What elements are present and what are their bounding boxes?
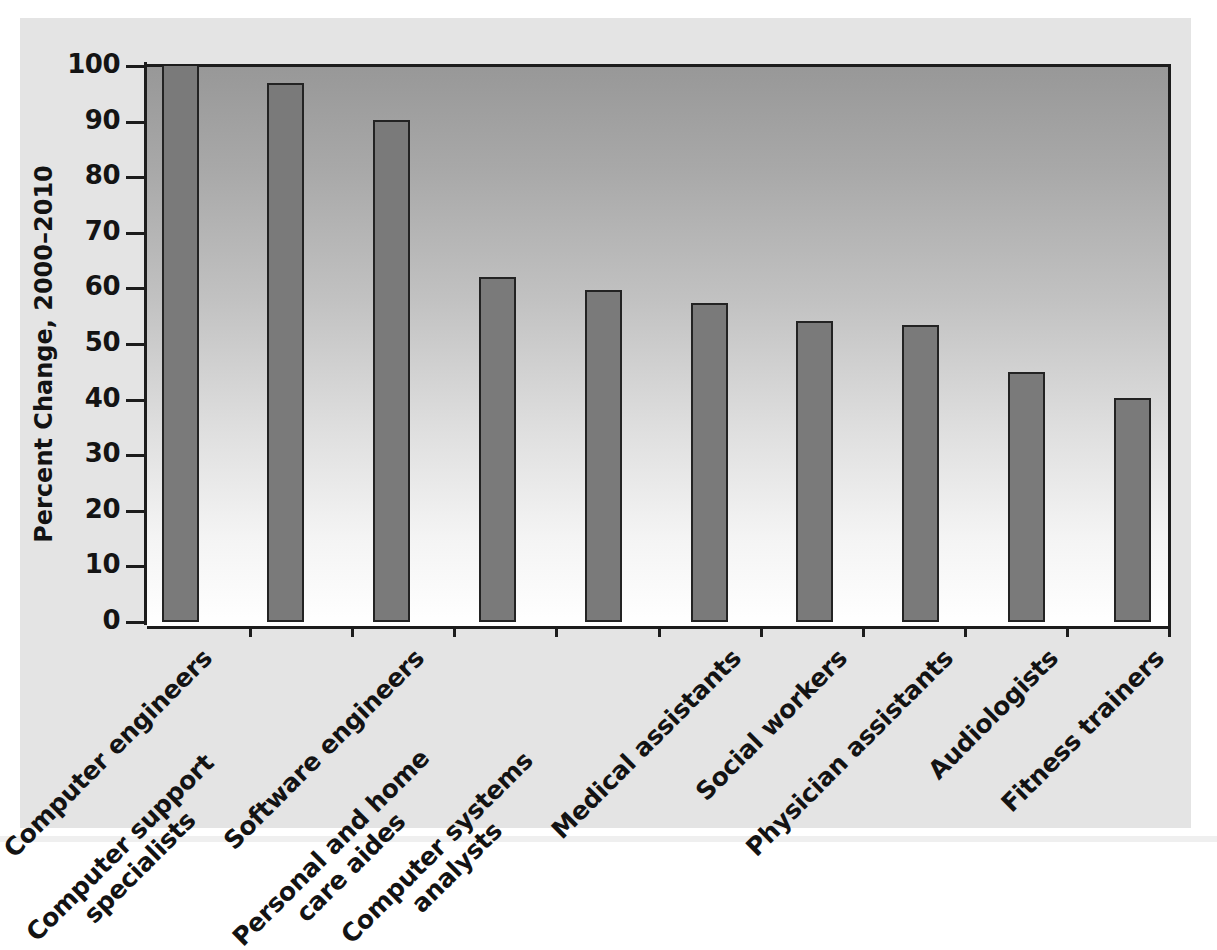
y-axis-tick-label: 40 xyxy=(50,383,120,413)
y-axis-tick xyxy=(126,121,144,124)
x-axis-tick xyxy=(555,626,558,637)
y-axis-tick-label-wrap: 100 xyxy=(28,66,120,67)
x-axis-tick xyxy=(760,626,763,637)
bar xyxy=(267,83,304,622)
bar xyxy=(902,325,939,622)
bar xyxy=(479,277,516,622)
y-axis-tick xyxy=(126,454,144,457)
bar xyxy=(162,66,199,622)
y-axis-tick xyxy=(126,399,144,402)
x-axis-tick xyxy=(351,626,354,637)
y-axis-tick-label: 0 xyxy=(50,605,120,635)
bar xyxy=(691,303,728,622)
bar xyxy=(1114,398,1151,622)
y-axis-tick-label: 100 xyxy=(50,49,120,79)
y-axis-tick-label: 80 xyxy=(50,160,120,190)
bar xyxy=(796,321,833,622)
y-axis-tick xyxy=(126,621,144,624)
bar xyxy=(1008,372,1045,622)
x-axis-tick xyxy=(1168,626,1171,637)
x-axis-tick xyxy=(862,626,865,637)
y-axis-title: Percent Change, 2000–2010 xyxy=(30,104,58,604)
y-axis-tick-label: 20 xyxy=(50,494,120,524)
x-axis-tick xyxy=(658,626,661,637)
y-axis-tick-label: 30 xyxy=(50,438,120,468)
x-axis-tick xyxy=(249,626,252,637)
x-axis-tick xyxy=(964,626,967,637)
y-axis-tick xyxy=(126,287,144,290)
bar xyxy=(373,120,410,622)
y-axis-tick-label: 60 xyxy=(50,271,120,301)
y-axis-tick xyxy=(126,343,144,346)
y-axis-tick-label: 70 xyxy=(50,216,120,246)
x-axis-tick xyxy=(1066,626,1069,637)
x-axis-tick xyxy=(453,626,456,637)
y-axis-tick-label: 50 xyxy=(50,327,120,357)
y-axis-tick-label: 10 xyxy=(50,549,120,579)
y-axis-tick xyxy=(126,176,144,179)
y-axis-tick-label: 90 xyxy=(50,105,120,135)
y-axis-line xyxy=(144,62,147,625)
y-axis-tick xyxy=(126,65,144,68)
bar xyxy=(585,290,622,622)
y-axis-tick-label-wrap: 0 xyxy=(28,622,120,623)
y-axis-tick xyxy=(126,510,144,513)
y-axis-tick xyxy=(126,232,144,235)
y-axis-tick xyxy=(126,565,144,568)
